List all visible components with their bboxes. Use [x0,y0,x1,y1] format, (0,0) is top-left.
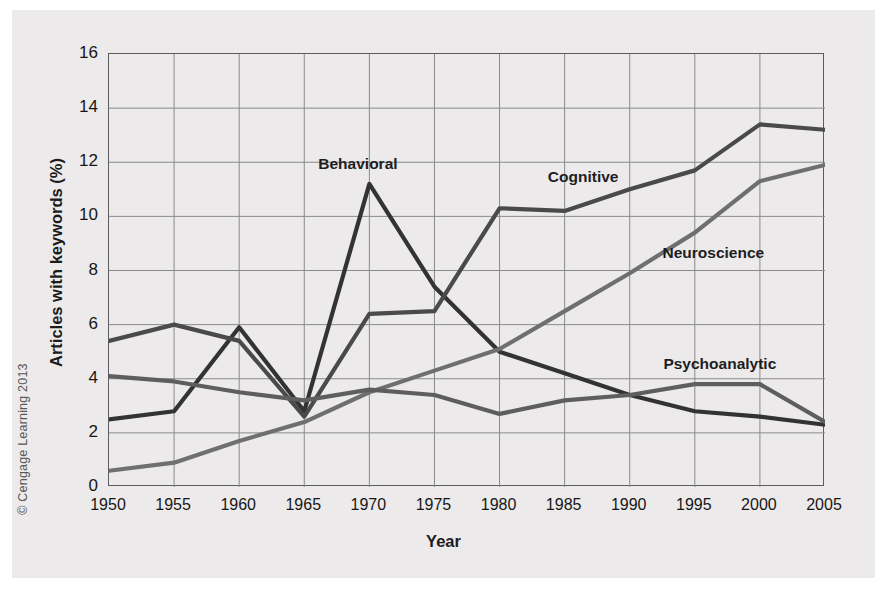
plot-area [108,53,824,486]
series-label-behavioral: Behavioral [318,155,397,173]
series-label-neuroscience: Neuroscience [663,244,765,262]
line-chart-svg [109,54,825,487]
series-label-psychoanalytic: Psychoanalytic [663,355,776,373]
copyright-notice: © Cengage Learning 2013 [16,354,30,524]
figure-canvas: © Cengage Learning 2013 Articles with ke… [0,0,887,593]
x-axis-title: Year [0,532,887,551]
gridlines [109,54,825,487]
y-axis-title: Articles with keywords (%) [47,113,66,413]
series-label-cognitive: Cognitive [548,168,619,186]
